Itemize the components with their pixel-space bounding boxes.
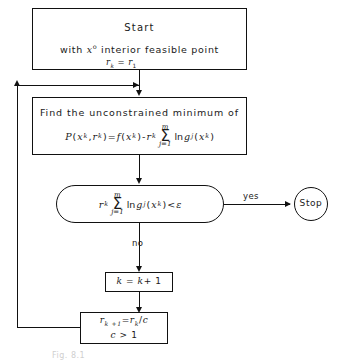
cond-summation: m Σ j=1 [111,192,124,216]
formula-eq: = [108,131,116,142]
cond-r-sub: k [104,200,108,208]
arrow-feedback-riser-head [14,80,20,86]
upd-line2-c: c [110,330,116,340]
formula-g-x-sup: k [205,132,209,140]
formula-x1: x [77,131,82,142]
cond-epsilon: ε [176,199,181,210]
inc-plus-one: + 1 [144,276,162,286]
formula-x1-sup: k [84,132,88,140]
node-increment-counter: k = k+ 1 [105,272,173,292]
formula-paren-close: ) [103,131,107,142]
node-convergence-test: rk m Σ j=1 lngj (xk) < ε [56,185,224,223]
start-sub-post: interior feasible point [97,44,219,55]
cond-paren-close: ) [162,199,166,210]
node-update-penalty-parameter: rk +1=rk/c c > 1 [80,312,168,344]
formula-f-x: x [126,131,131,142]
node-update-constraint: c > 1 [110,330,137,341]
connector-start-to-find [139,70,140,92]
formula-f-paren-close: ) [137,131,141,142]
formula-f-x-sup: k [132,132,136,140]
arrow-test-to-stop [285,201,291,207]
cond-lt: < [167,199,175,210]
arrow-start-to-find [136,90,142,96]
node-stop-label: Stop [300,198,323,209]
formula-r2-sub: k [152,132,156,140]
formula-g-paren-close: ) [210,131,214,142]
inc-eq: = [126,276,134,286]
formula-g-paren-open: ( [194,131,198,142]
formula-r2: r [146,131,151,142]
arrow-feedback-into-main [133,82,139,88]
r1-sub: 1 [133,63,137,69]
cond-g: g [136,199,142,210]
formula-g: g [184,131,190,142]
formula-ln: ln [174,131,183,142]
cond-g-sub: j [143,200,145,208]
cond-x: x [151,199,156,210]
formula-comma: , [89,131,92,142]
node-find-formula: P(xk,rk)=f(xk)-rk m Σ j=1 lngj (xk) [65,124,214,148]
edge-label-no: no [132,238,143,248]
cond-ln: ln [127,199,136,210]
node-find: Find the unconstrained minimum of P(xk,r… [32,97,247,155]
rk-sub: k [110,63,114,69]
node-start: Start with xo interior feasible point [32,8,247,70]
connector-find-to-test [139,155,140,180]
node-test-condition: rk m Σ j=1 lngj (xk) < ε [99,192,182,216]
cond-summation-lower-limit: j=1 [111,209,124,216]
summation-lower-limit: j=1 [159,141,172,148]
connector-feedback-bottom [17,327,80,328]
upd-c: c [143,315,149,325]
formula-summation: m Σ j=1 [159,124,172,148]
node-increment-expression: k = k+ 1 [116,276,161,287]
upd-eq: = [122,315,130,325]
upd-r-lhs-sub: k +1 [105,320,122,327]
inc-k: k [116,276,122,286]
cond-r: r [99,199,104,210]
upd-line2-rest: > 1 [120,330,138,340]
node-find-title: Find the unconstrained minimum of [40,107,239,119]
node-stop: Stop [294,187,328,221]
rk-eq: = [117,57,125,67]
formula-r1-sub: k [98,132,102,140]
connector-feedback-riser [17,85,18,328]
node-start-subtitle: with xo interior feasible point [60,43,219,56]
start-sub-pre: with [60,44,87,55]
formula-r1: r [93,131,98,142]
node-update-expression: rk +1=rk/c [100,315,149,327]
node-start-title: Start [124,22,154,35]
arrow-find-to-test [136,178,142,184]
formula-minus: - [142,131,145,142]
figure-caption: Fig. 8.1 [52,351,85,360]
formula-g-x: x [199,131,204,142]
formula-g-sub: j [191,132,193,140]
cond-paren-open: ( [146,199,150,210]
edge-label-yes: yes [243,191,259,201]
formula-f-paren-open: ( [121,131,125,142]
formula-f: f [117,131,121,142]
connector-feedback-top [17,85,139,86]
cond-x-sup: k [158,200,162,208]
flowchart-canvas: Start with xo interior feasible point rk… [0,0,338,360]
formula-P: P [65,131,71,142]
formula-paren-open: ( [73,131,77,142]
connector-test-to-stop [224,204,290,205]
edge-label-rk-eq-r1: rk = r1 [106,57,137,69]
